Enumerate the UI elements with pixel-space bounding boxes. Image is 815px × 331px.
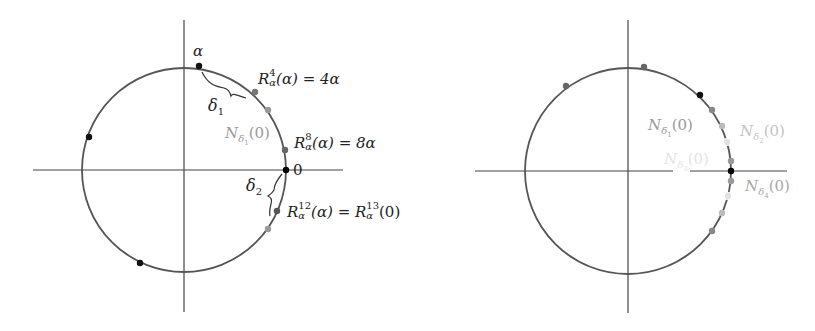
circle-rotation-diagram: α δ1 R4α(α) = 4α Nδ1(0) R8α(α) = 8α 0 δ2… [0, 0, 815, 331]
label-R8-alpha: R8α(α) = 8α [294, 134, 376, 154]
right-point-p-f [725, 193, 731, 199]
left-point-R8 [282, 147, 288, 153]
left-point-p2 [86, 134, 92, 140]
right-point-p-d [728, 158, 734, 164]
right-point-p-b [719, 123, 725, 129]
label-zero: 0 [293, 163, 303, 178]
label-N-delta2-right: Nδ2(0) [740, 124, 785, 141]
left-point-alpha [196, 63, 202, 69]
label-N-delta4-right: Nδ4(0) [745, 179, 790, 196]
label-R12-equals-R13: R12α(α) = R13α(0) [287, 203, 400, 223]
label-R4-alpha: R4α(α) = 4α [258, 70, 340, 90]
right-point-p-g [719, 210, 725, 216]
label-delta2: δ2 [246, 178, 262, 194]
left-point-R12 [274, 208, 280, 214]
right-point-p-e [728, 178, 734, 184]
right-point-p-c [724, 139, 730, 145]
right-point-p-a [709, 107, 715, 113]
right-point-p-left [563, 83, 569, 89]
right-point-p-top [641, 64, 647, 70]
right-point-p-black-upper [697, 92, 703, 98]
label-delta1: δ1 [208, 98, 224, 114]
left-point-p3 [137, 260, 143, 266]
left-point-zero [283, 167, 289, 173]
label-N-delta3-right: Nδ3(0) [664, 152, 709, 169]
label-N-delta1-right: Nδ1(0) [648, 118, 693, 135]
right-point-zero [728, 168, 734, 174]
right-point-p-h [709, 228, 715, 234]
label-alpha: α [193, 44, 203, 59]
label-N-delta1: Nδ1(0) [225, 126, 270, 143]
left-point-p5 [265, 107, 271, 113]
left-point-p13 [265, 226, 271, 232]
